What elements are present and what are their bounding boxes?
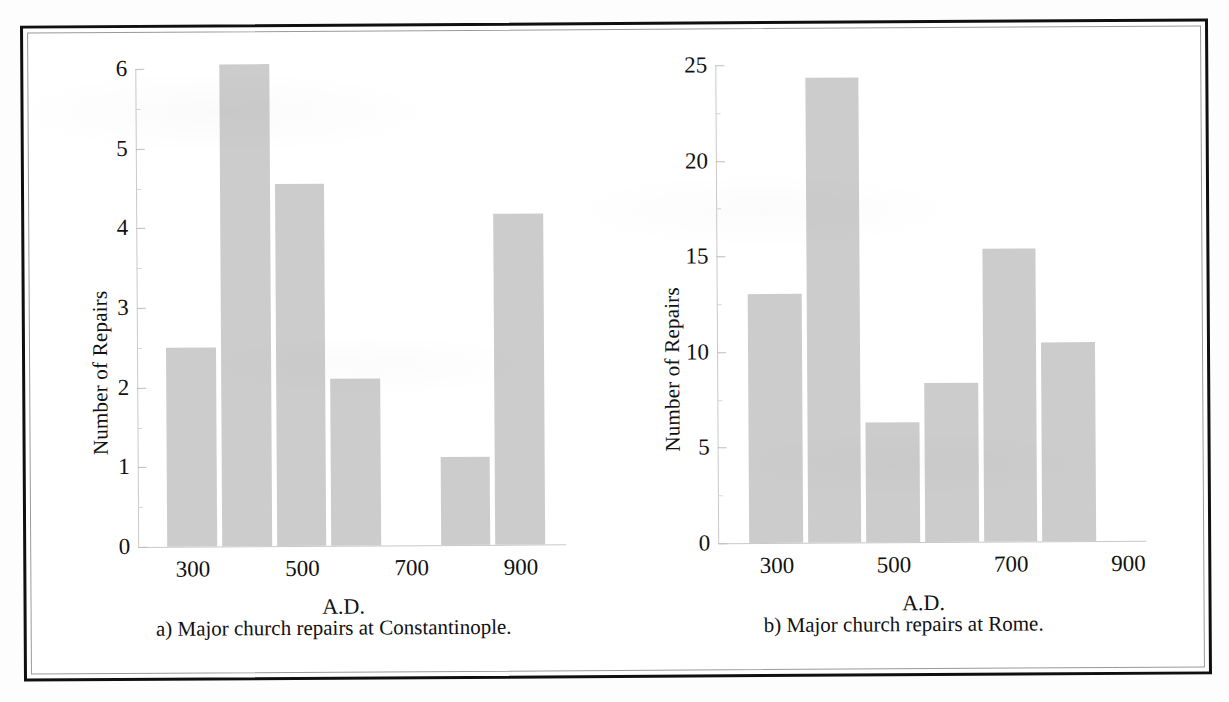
panel-caption-b: b) Major church repairs at Rome. <box>764 611 1044 638</box>
y-axis-minor-tick <box>138 507 143 508</box>
bar <box>924 383 979 542</box>
y-axis-tick-label: 3 <box>85 295 129 321</box>
bar <box>748 294 803 543</box>
bar <box>166 347 217 546</box>
x-axis-tick-label: 500 <box>877 552 912 578</box>
x-axis-tick-label: 700 <box>994 551 1029 577</box>
y-axis-tick <box>716 256 725 257</box>
y-axis-tick <box>718 543 727 544</box>
bar <box>1041 342 1096 541</box>
y-axis-tick-label: 0 <box>666 530 710 556</box>
figure-content: Number of Repairs 0123456300500700900A.D… <box>20 18 1206 675</box>
y-axis-tick-label: 10 <box>665 339 709 365</box>
y-axis-minor-tick <box>137 348 142 349</box>
y-axis-tick <box>136 228 145 229</box>
y-axis-tick <box>138 547 147 548</box>
y-axis-tick-label: 25 <box>663 52 707 78</box>
bar <box>331 378 382 546</box>
y-axis-tick <box>715 65 724 66</box>
y-axis-tick-label: 0 <box>86 534 130 560</box>
y-axis-tick <box>716 161 725 162</box>
bar <box>982 249 1037 542</box>
y-axis-minor-tick <box>716 209 721 210</box>
y-axis-minor-tick <box>136 188 141 189</box>
y-axis-minor-tick <box>718 496 723 497</box>
y-axis-tick-label: 6 <box>83 56 127 82</box>
bar <box>866 422 920 543</box>
plot-area-a: 0123456300500700900A.D. <box>40 38 623 562</box>
chart-panel-constantinople: Number of Repairs 0123456300500700900A.D… <box>40 22 624 676</box>
x-axis-tick-label: 900 <box>504 554 539 580</box>
y-axis-tick-label: 5 <box>666 435 710 461</box>
y-axis-tick <box>717 352 726 353</box>
y-axis-minor-tick <box>137 268 142 269</box>
y-axis-tick-label: 1 <box>86 454 130 480</box>
y-axis-minor-tick <box>717 400 722 401</box>
y-axis-tick <box>138 467 147 468</box>
bar <box>440 457 490 545</box>
y-axis-tick-label: 15 <box>664 244 708 270</box>
y-axis-tick <box>136 149 145 150</box>
y-axis-tick-label: 4 <box>84 215 128 241</box>
bar <box>805 78 861 543</box>
panel-caption-a: a) Major church repairs at Constantinopl… <box>156 615 512 642</box>
bar <box>494 214 546 545</box>
x-axis-tick-label: 300 <box>176 556 211 582</box>
y-axis-tick <box>137 388 146 389</box>
y-axis-tick <box>135 69 144 70</box>
x-axis-tick-label: 700 <box>394 555 429 581</box>
y-axis-tick <box>137 308 146 309</box>
plot-area-b: 0510152025300500700900A.D. <box>620 35 1183 558</box>
x-axis-tick-label: 500 <box>285 556 320 582</box>
y-axis-tick-label: 5 <box>84 136 128 162</box>
y-axis-minor-tick <box>717 304 722 305</box>
y-axis-tick-label: 20 <box>664 148 708 174</box>
bar <box>219 64 272 546</box>
y-axis-tick-label: 2 <box>85 375 129 401</box>
y-axis-minor-tick <box>137 427 142 428</box>
scanned-page: Number of Repairs 0123456300500700900A.D… <box>0 0 1229 702</box>
y-axis-tick <box>718 448 727 449</box>
x-axis-tick-label: 900 <box>1111 551 1146 577</box>
y-axis-minor-tick <box>136 109 141 110</box>
y-axis-minor-tick <box>716 113 721 114</box>
x-axis-tick-label: 300 <box>760 553 795 579</box>
chart-panel-rome: Number of Repairs 0510152025300500700900… <box>620 19 1184 672</box>
bar <box>275 183 327 546</box>
